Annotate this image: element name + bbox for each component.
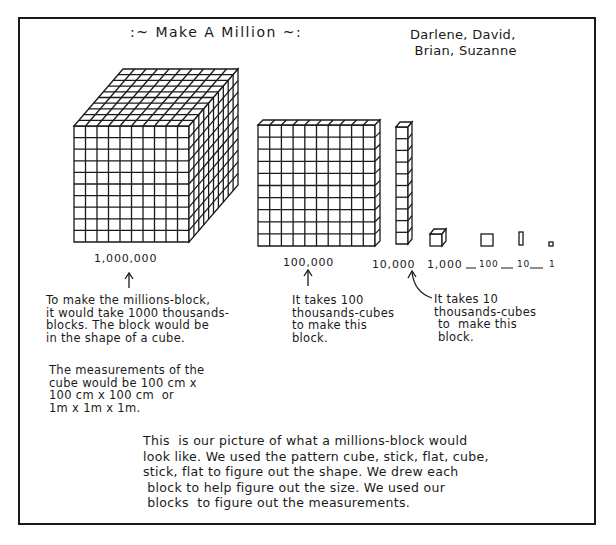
hundred-flat-icon <box>481 234 493 246</box>
million-note: To make the millions-block, it would tak… <box>46 294 229 344</box>
one-unit-icon <box>549 242 553 246</box>
ten-thousand-label: 10,000 <box>372 258 415 271</box>
summary-paragraph: This is our picture of what a millions-b… <box>143 433 489 511</box>
ten-thousands-stick-icon <box>396 122 412 244</box>
measurements-note: The measurements of the cube would be 10… <box>49 364 204 414</box>
million-label: 1,000,000 <box>94 252 157 265</box>
hundred-thousand-label: 100,000 <box>283 256 334 269</box>
ten-stick-icon <box>519 232 523 245</box>
hundred-thousand-note: It takes 100 thousands-cubes to make thi… <box>292 294 394 344</box>
thousand-cube-icon <box>430 229 446 246</box>
ten-thousand-note: It takes 10 thousands-cubes to make this… <box>434 293 536 343</box>
one-label: 1 <box>549 258 556 271</box>
ten-label: 10 <box>517 258 530 271</box>
thousand-label: 1,000 <box>427 258 463 271</box>
hundred-thousands-flat-icon <box>258 120 380 246</box>
hundred-label: 100 <box>479 258 499 271</box>
millions-cube-icon <box>74 69 238 242</box>
